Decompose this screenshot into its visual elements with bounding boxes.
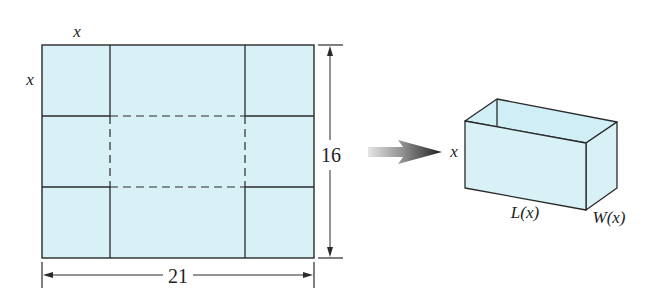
arrowhead-up-icon — [327, 46, 333, 56]
box-length-label: L(x) — [510, 203, 540, 222]
width-label: 21 — [168, 265, 188, 287]
box-width-label: W(x) — [592, 208, 625, 227]
open-box: x L(x) W(x) — [449, 99, 626, 227]
box-folding-diagram: x x 16 21 x L(x) W(x) — [0, 0, 662, 294]
sheet-outline — [42, 45, 314, 258]
height-dimension: 16 — [318, 45, 343, 258]
transform-arrow-icon — [368, 140, 442, 164]
arrowhead-right-icon — [303, 272, 313, 278]
box-height-label: x — [449, 142, 458, 161]
arrowhead-left-icon — [43, 272, 53, 278]
corner-label-top: x — [72, 22, 81, 41]
corner-label-left: x — [25, 70, 34, 89]
width-dimension: 21 — [42, 262, 314, 288]
height-label: 16 — [321, 144, 341, 166]
arrowhead-down-icon — [327, 247, 333, 257]
flat-sheet: x x — [25, 22, 314, 258]
